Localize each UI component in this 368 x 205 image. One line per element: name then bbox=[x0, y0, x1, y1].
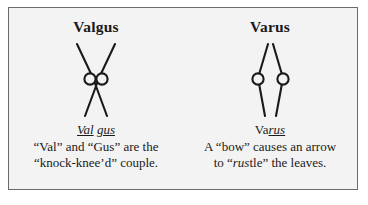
figure-frame: Valgus Val gus “Val” and “Gus” are the“k… bbox=[8, 7, 358, 190]
varus-left-knee-circle-icon bbox=[252, 73, 263, 84]
varus-bow-leg-diagram bbox=[227, 41, 313, 119]
valgus-right-knee-circle-icon bbox=[96, 73, 107, 84]
panel-varus: Varus Varus A “bow” causes an arrowto “r… bbox=[183, 8, 357, 189]
panel-valgus-caption: “Val” and “Gus” are the“knock-knee’d” co… bbox=[34, 139, 159, 171]
panel-varus-mnemonic-part2: rus bbox=[269, 122, 286, 137]
varus-right-knee-circle-icon bbox=[277, 73, 288, 84]
panel-valgus-caption-line2: “knock-knee’d” couple. bbox=[34, 155, 159, 171]
valgus-knock-knee-diagram bbox=[53, 41, 139, 119]
panel-varus-caption-line1: A “bow” causes an arrow bbox=[204, 139, 336, 155]
panel-valgus-heading: Valgus bbox=[73, 19, 118, 35]
panel-valgus-mnemonic-part1: Val bbox=[77, 122, 94, 137]
panel-varus-caption: A “bow” causes an arrowto “rustle” the l… bbox=[204, 139, 336, 171]
panel-varus-heading: Varus bbox=[250, 19, 290, 35]
panel-columns: Valgus Val gus “Val” and “Gus” are the“k… bbox=[9, 8, 357, 189]
panel-valgus-mnemonic-part2: gus bbox=[97, 122, 115, 137]
panel-varus-caption-line2-post: tle” the leaves. bbox=[249, 155, 326, 170]
panel-varus-mnemonic-part1: Va bbox=[255, 122, 269, 137]
valgus-left-knee-circle-icon bbox=[84, 73, 95, 84]
panel-varus-caption-line2-pre: to “ bbox=[214, 155, 233, 170]
panel-varus-caption-line2-italic: rus bbox=[233, 155, 250, 170]
panel-valgus-caption-line1: “Val” and “Gus” are the bbox=[34, 139, 159, 155]
panel-varus-mnemonic: Varus bbox=[255, 123, 285, 138]
panel-valgus-mnemonic: Val gus bbox=[77, 123, 115, 138]
panel-valgus: Valgus Val gus “Val” and “Gus” are the“k… bbox=[9, 8, 183, 189]
panel-varus-caption-line2: to “rustle” the leaves. bbox=[204, 155, 336, 171]
